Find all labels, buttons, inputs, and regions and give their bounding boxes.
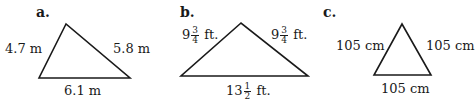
whole: 13 xyxy=(226,83,243,98)
unit: ft. xyxy=(256,83,270,98)
figure-a-label: a. xyxy=(36,5,50,19)
figure-c-right-side: 105 cm xyxy=(426,39,475,52)
whole: 9 xyxy=(182,27,190,42)
whole: 9 xyxy=(271,27,279,42)
unit: ft. xyxy=(204,27,218,42)
figure-b-right-side: 934 ft. xyxy=(271,26,307,45)
denominator: 4 xyxy=(191,36,199,45)
denominator: 4 xyxy=(280,36,288,45)
figure-a-right-side: 5.8 m xyxy=(113,42,150,55)
figure-b-bottom-side: 1312 ft. xyxy=(226,82,271,101)
unit: ft. xyxy=(293,27,307,42)
figure-c-label: c. xyxy=(323,5,336,19)
figure-a-bottom-side: 6.1 m xyxy=(64,84,101,97)
figure-c-bottom-side: 105 cm xyxy=(381,82,430,95)
figure-a-left-side: 4.7 m xyxy=(5,42,42,55)
denominator: 2 xyxy=(244,92,252,101)
figure-b-left-side: 934 ft. xyxy=(182,26,218,45)
figure-b-label: b. xyxy=(180,5,195,19)
figure-c-left-side: 105 cm xyxy=(336,39,385,52)
